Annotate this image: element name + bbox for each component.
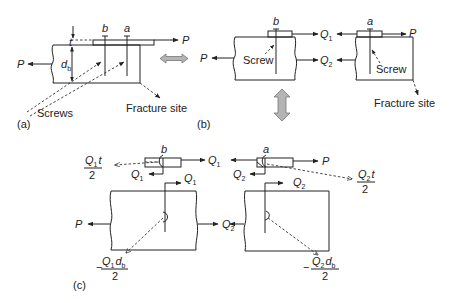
svg-text:2: 2 xyxy=(89,169,95,181)
moment-q2db-over-2-expr: Q2db 2 xyxy=(311,255,339,282)
svg-text:Q1t: Q1t xyxy=(85,154,102,168)
force-q1-top: Q1 xyxy=(184,172,197,186)
panel-c-tag: (c) xyxy=(73,279,86,291)
svg-text:Q1db: Q1db xyxy=(102,255,126,269)
label-a: a xyxy=(263,143,269,155)
moment-q2db-over-2: − xyxy=(303,261,309,273)
top-plate xyxy=(93,40,154,45)
panel-a: t b a P P db Screws Fracture site (a) xyxy=(17,22,190,130)
force-q2-lower: Q2 xyxy=(233,168,246,182)
force-p-left: P xyxy=(75,218,83,230)
svg-text:Q2t: Q2t xyxy=(358,168,375,182)
label-a: a xyxy=(367,15,373,27)
double-arrow-vertical-icon xyxy=(274,89,290,121)
right-block xyxy=(244,191,329,251)
double-arrow-horizontal-icon xyxy=(160,54,188,63)
force-q1-left: Q1 xyxy=(320,28,333,42)
label-b: b xyxy=(102,22,108,34)
svg-text:−: − xyxy=(303,261,309,273)
thickness-label: t xyxy=(69,36,73,48)
force-q2-top: Q2 xyxy=(293,176,306,190)
screw-a xyxy=(124,36,130,76)
lap-joint-free-body-diagram: t b a P P db Screws Fracture site (a) xyxy=(0,0,451,303)
moment-q1db-over-2: − Q1db 2 xyxy=(96,255,128,282)
svg-text:2: 2 xyxy=(322,270,328,282)
svg-text:2: 2 xyxy=(362,183,368,195)
force-p-right: P xyxy=(409,27,417,39)
force-q2-left-block: Q2 xyxy=(222,218,235,232)
screw-b xyxy=(102,36,108,76)
force-q1-lower: Q1 xyxy=(131,168,144,182)
panel-a-tag: (a) xyxy=(17,118,30,130)
panel-b-tag: (b) xyxy=(197,118,210,130)
depth-label: db xyxy=(61,58,71,72)
force-q2-left: Q2 xyxy=(320,54,333,68)
label-b: b xyxy=(273,15,279,27)
force-p-right: P xyxy=(322,155,330,167)
svg-text:Q2db: Q2db xyxy=(312,255,336,269)
fracture-site-label: Fracture site xyxy=(374,97,435,109)
force-p-left: P xyxy=(17,58,25,70)
panel-c: b Q1 Q1 Q1t 2 Q1 P Q2 − Q1db 2 xyxy=(73,143,375,291)
moment-q2t-over-2: Q2t 2 xyxy=(357,168,375,195)
screw-label-left: Screw xyxy=(243,54,274,66)
label-a: a xyxy=(124,22,130,34)
fracture-site-label: Fracture site xyxy=(126,102,187,114)
label-b: b xyxy=(161,143,167,155)
svg-text:2: 2 xyxy=(112,270,118,282)
screws-label: Screws xyxy=(37,107,74,119)
moment-q1t-over-2: Q1t 2 xyxy=(84,154,102,181)
force-q1-right: Q1 xyxy=(208,154,221,168)
force-p-left: P xyxy=(200,52,208,64)
panel-b: b Screw P Q1 Q2 a Screw P Fracture site … xyxy=(197,15,435,130)
screw-label-right: Screw xyxy=(376,63,407,75)
left-block xyxy=(110,191,197,250)
force-p-right: P xyxy=(182,34,190,46)
